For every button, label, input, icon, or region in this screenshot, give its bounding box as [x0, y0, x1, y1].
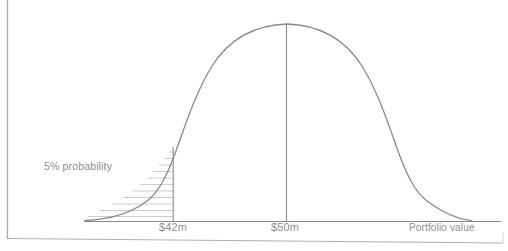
x-axis-label: Portfolio value: [409, 222, 475, 233]
distribution-chart-svg: [0, 0, 508, 251]
figure-container: 5% probability $42m $50m Portfolio value: [0, 0, 508, 251]
page-frame: [7, 0, 503, 243]
x-tick-label-50m: $50m: [271, 221, 299, 233]
x-tick-label-42m: $42m: [159, 221, 187, 233]
shaded-region-annotation: 5% probability: [44, 160, 112, 172]
